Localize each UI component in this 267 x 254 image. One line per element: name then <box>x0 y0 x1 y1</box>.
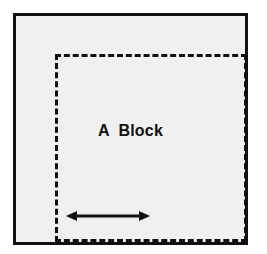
double-headed-arrow-icon <box>66 206 150 226</box>
outer-solid-block: A Block <box>13 13 248 245</box>
block-label: A Block <box>16 122 245 140</box>
